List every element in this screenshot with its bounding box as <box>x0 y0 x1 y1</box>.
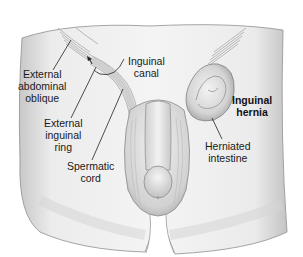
diagram-canvas: External abdominal oblique Inguinal cana… <box>0 0 303 257</box>
label-spermatic-cord: Spermatic cord <box>67 160 114 184</box>
label-herniated-intestine: Herniated intestine <box>205 140 251 164</box>
penis-shaft <box>145 101 171 170</box>
label-inguinal-canal: Inguinal canal <box>128 55 165 79</box>
penis-glans <box>144 166 172 198</box>
label-inguinal-hernia: Inguinal hernia <box>232 94 272 118</box>
label-external-inguinal-ring: External inguinal ring <box>44 117 83 153</box>
label-external-abdominal-oblique: External abdominal oblique <box>18 68 66 104</box>
